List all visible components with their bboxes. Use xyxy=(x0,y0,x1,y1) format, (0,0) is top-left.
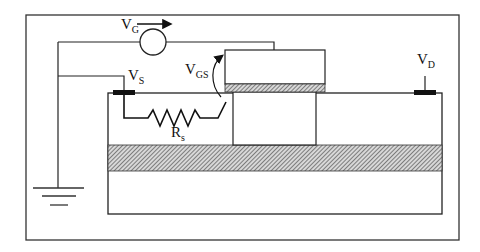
label-rs-sub: s xyxy=(181,132,185,143)
label-vs-main: V xyxy=(128,67,139,83)
label-rs-main: R xyxy=(171,124,181,140)
channel-region xyxy=(233,92,316,145)
label-vgs: VGS xyxy=(185,62,209,80)
label-vgs-main: V xyxy=(185,61,196,77)
label-vd-sub: D xyxy=(428,59,435,70)
drain-contact xyxy=(414,90,436,95)
label-vg-main: V xyxy=(121,16,132,32)
source-contact xyxy=(113,90,135,95)
label-vd-main: V xyxy=(417,51,428,67)
buried-layer xyxy=(108,145,442,171)
mosfet-diagram xyxy=(0,0,480,252)
label-vd: VD xyxy=(417,52,435,70)
label-vgs-sub: GS xyxy=(196,69,209,80)
voltage-source-vg xyxy=(140,29,166,55)
label-rs: Rs xyxy=(171,125,185,143)
label-vg-sub: G xyxy=(132,24,139,35)
label-vs-sub: S xyxy=(139,75,145,86)
gate-oxide xyxy=(225,84,325,92)
gate-wire-2 xyxy=(166,42,274,50)
label-vg: VG xyxy=(121,17,139,35)
label-vs: VS xyxy=(128,68,144,86)
vgs-arrow-icon xyxy=(213,56,222,97)
gate-electrode xyxy=(225,50,325,84)
